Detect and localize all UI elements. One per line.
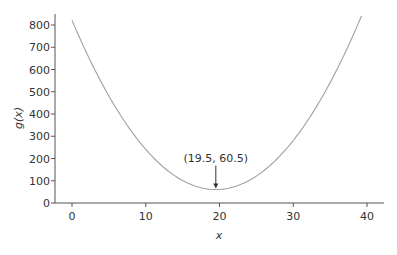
y-tick-label: 0 [43,197,50,210]
y-tick-label: 200 [29,153,50,166]
minimum-annotation: (19.5, 60.5) [184,152,249,189]
arrow-down-icon [213,184,218,189]
annotation-label: (19.5, 60.5) [184,152,249,165]
x-tick-label: 40 [360,210,374,223]
y-tick-label: 500 [29,86,50,99]
y-tick-label: 100 [29,175,50,188]
y-tick-label: 300 [29,130,50,143]
x-axis-label: x [215,229,223,242]
y-tick-label: 600 [29,64,50,77]
x-ticks: 010203040 [69,203,375,223]
y-tick-label: 700 [29,41,50,54]
chart: 0100200300400500600700800 010203040 (19.… [0,0,397,255]
x-tick-label: 0 [69,210,76,223]
y-ticks: 0100200300400500600700800 [29,19,55,210]
y-tick-label: 800 [29,19,50,32]
x-tick-label: 20 [213,210,227,223]
axes: 0100200300400500600700800 010203040 [29,14,384,223]
y-tick-label: 400 [29,108,50,121]
y-axis-label: g(x) [12,107,25,129]
x-tick-label: 30 [286,210,300,223]
x-tick-label: 10 [139,210,153,223]
